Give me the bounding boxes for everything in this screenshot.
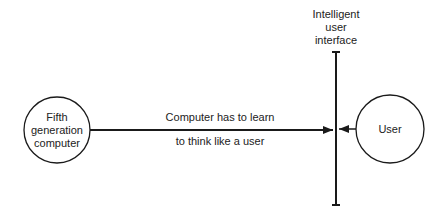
user-line-1: User	[360, 123, 420, 136]
interface-line-2: user	[296, 21, 376, 34]
interface-label: Intelligent user interface	[296, 8, 376, 47]
fifth-gen-line-1: Fifth	[22, 111, 92, 124]
interface-line-3: interface	[296, 34, 376, 47]
fifth-gen-line-3: computer	[22, 137, 92, 150]
fifth-gen-label: Fifth generation computer	[22, 111, 92, 150]
edge-label-top: Computer has to learn	[150, 111, 290, 124]
edge-label-bottom: to think like a user	[150, 135, 290, 148]
interface-line-1: Intelligent	[296, 8, 376, 21]
fifth-gen-line-2: generation	[22, 124, 92, 137]
diagram-canvas	[0, 0, 447, 216]
user-label: User	[360, 123, 420, 136]
